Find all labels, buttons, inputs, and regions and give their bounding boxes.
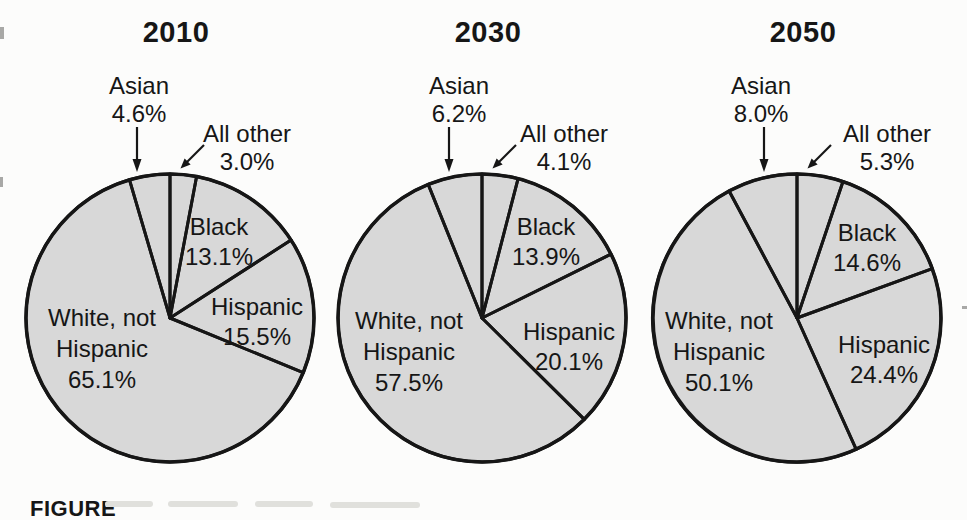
slice-name: Black (833, 218, 901, 248)
slice-name: Black (512, 212, 580, 242)
label-hispanic: Hispanic 24.4% (838, 330, 930, 390)
label-black: Black 13.1% (185, 212, 253, 272)
slice-value: 13.9% (512, 242, 580, 272)
slice-value: 50.1% (665, 367, 773, 398)
caption-illegible-text (255, 501, 313, 507)
slice-name: All other (520, 120, 608, 148)
label-all-other: All other 5.3% (843, 120, 931, 176)
slice-name-line1: White, not (48, 302, 156, 333)
slice-name-line2: Hispanic (355, 336, 463, 367)
slice-value: 14.6% (833, 248, 901, 278)
slice-value: 65.1% (48, 364, 156, 395)
label-white-not-hispanic: White, not Hispanic 65.1% (48, 302, 156, 395)
scan-artifact (962, 306, 967, 309)
slice-value: 57.5% (355, 367, 463, 398)
slice-name-line1: White, not (355, 305, 463, 336)
figure-caption: FIGURE (30, 496, 116, 520)
label-white-not-hispanic: White, not Hispanic 57.5% (355, 305, 463, 398)
slice-value: 13.1% (185, 242, 253, 272)
slice-name: Asian (109, 72, 169, 100)
label-asian: Asian 8.0% (731, 72, 791, 128)
slice-value: 20.1% (523, 347, 615, 377)
slice-name: Asian (731, 72, 791, 100)
arrow-down-left-icon (181, 145, 205, 169)
slice-name-line2: Hispanic (48, 333, 156, 364)
caption-illegible-text (168, 501, 238, 507)
pie-chart-2050: 2050 Asian 8.0% All other 5.3% Black 14.… (635, 0, 957, 508)
caption-illegible-text (330, 502, 420, 508)
scan-artifact (0, 177, 3, 187)
slice-name-line1: White, not (665, 305, 773, 336)
arrow-down-icon (760, 127, 769, 172)
slice-value: 24.4% (838, 360, 930, 390)
slice-value: 15.5% (211, 322, 303, 352)
slice-value: 3.0% (203, 148, 291, 176)
label-asian: Asian 6.2% (429, 72, 489, 128)
pie-chart-2030: 2030 Asian 6.2% All other 4.1% Black 13.… (320, 0, 642, 508)
pie-chart-2010: 2010 Asian 4.6% All other 3.0% Black 13.… (8, 0, 330, 508)
slice-name: Asian (429, 72, 489, 100)
label-hispanic: Hispanic 15.5% (211, 292, 303, 352)
label-black: Black 13.9% (512, 212, 580, 272)
callout-arrows (635, 0, 957, 508)
slice-name: Hispanic (523, 317, 615, 347)
arrow-down-left-icon (808, 145, 832, 169)
slice-value: 6.2% (429, 100, 489, 128)
label-all-other: All other 4.1% (520, 120, 608, 176)
label-black: Black 14.6% (833, 218, 901, 278)
slice-name: All other (843, 120, 931, 148)
slice-name: Black (185, 212, 253, 242)
caption-illegible-text (105, 501, 153, 507)
slice-name: Hispanic (838, 330, 930, 360)
slice-name: Hispanic (211, 292, 303, 322)
slice-name: All other (203, 120, 291, 148)
slice-value: 8.0% (731, 100, 791, 128)
label-hispanic: Hispanic 20.1% (523, 317, 615, 377)
arrow-down-left-icon (493, 145, 517, 169)
slice-name-line2: Hispanic (665, 336, 773, 367)
arrow-down-icon (133, 127, 142, 172)
arrow-down-icon (445, 127, 454, 172)
slice-value: 5.3% (843, 148, 931, 176)
scan-artifact (0, 27, 4, 39)
label-all-other: All other 3.0% (203, 120, 291, 176)
slice-value: 4.6% (109, 100, 169, 128)
label-asian: Asian 4.6% (109, 72, 169, 128)
slice-value: 4.1% (520, 148, 608, 176)
label-white-not-hispanic: White, not Hispanic 50.1% (665, 305, 773, 398)
